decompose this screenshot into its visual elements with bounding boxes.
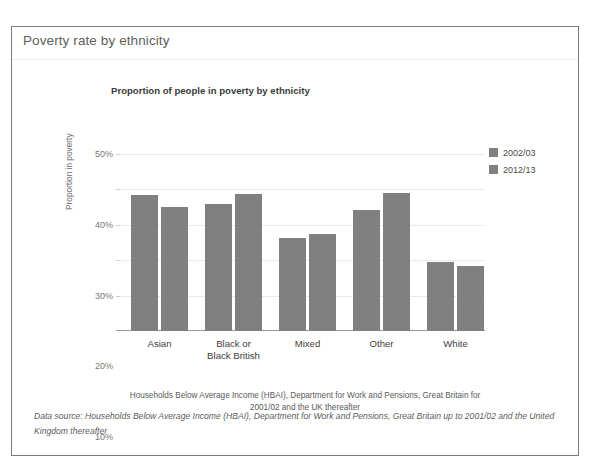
- y-axis-tick: [116, 296, 120, 297]
- legend-item[interactable]: 2002/03: [489, 145, 536, 160]
- legend-item[interactable]: 2012/13: [489, 162, 536, 177]
- x-axis-category-label: White: [443, 338, 468, 350]
- legend-label: 2012/13: [503, 165, 536, 175]
- y-axis-title: Proportion in poverty: [64, 90, 74, 210]
- y-axis-tick: [116, 154, 120, 155]
- category-label-line: Black or: [207, 338, 260, 350]
- chart-title: Proportion of people in poverty by ethni…: [111, 85, 310, 96]
- card-header: Poverty rate by ethnicity: [12, 27, 578, 60]
- y-axis-tick: [116, 225, 120, 226]
- y-axis-tick: [116, 189, 120, 190]
- bar[interactable]: [383, 193, 410, 331]
- bar[interactable]: [161, 207, 188, 331]
- bar[interactable]: [353, 210, 380, 331]
- legend-label: 2002/03: [503, 148, 536, 158]
- y-axis-tick-label: 20%: [95, 361, 113, 371]
- x-axis-category-label: Asian: [148, 338, 172, 350]
- category-label-line: Other: [370, 338, 394, 350]
- category-label-line: Asian: [148, 338, 172, 350]
- chart-legend: 2002/032012/13: [489, 145, 536, 179]
- chart-container: Proportion of people in poverty by ethni…: [12, 60, 578, 400]
- category-label-line: Black British: [207, 350, 260, 362]
- legend-swatch-icon: [489, 165, 498, 174]
- x-axis-category-label: Other: [370, 338, 394, 350]
- y-axis-tick-label: 30%: [95, 291, 113, 301]
- x-axis-category-label: Mixed: [295, 338, 321, 350]
- bar[interactable]: [205, 204, 232, 331]
- category-label-line: Mixed: [295, 338, 321, 350]
- data-source-note: Data source: Households Below Average In…: [34, 409, 564, 439]
- bar[interactable]: [309, 234, 336, 331]
- category-label-line: White: [443, 338, 468, 350]
- chart-card: Poverty rate by ethnicity Proportion of …: [11, 26, 579, 456]
- y-axis-tick-label: 40%: [95, 220, 113, 230]
- page-title: Poverty rate by ethnicity: [23, 33, 170, 48]
- bar-group: White: [427, 154, 484, 331]
- bar-group: Asian: [131, 154, 188, 331]
- bar[interactable]: [457, 266, 484, 331]
- bar[interactable]: [279, 238, 306, 331]
- bar-group: Black orBlack British: [205, 154, 262, 331]
- y-axis-tick: [116, 260, 120, 261]
- bar-group: Mixed: [279, 154, 336, 331]
- legend-swatch-icon: [489, 148, 498, 157]
- y-axis-tick-label: 50%: [95, 149, 113, 159]
- x-axis-category-label: Black orBlack British: [207, 338, 260, 362]
- bar-group: Other: [353, 154, 410, 331]
- plot-area: 50%40%30%20%10%AsianBlack orBlack Britis…: [120, 154, 485, 331]
- bar[interactable]: [235, 194, 262, 331]
- bar[interactable]: [131, 195, 158, 331]
- bar[interactable]: [427, 262, 454, 331]
